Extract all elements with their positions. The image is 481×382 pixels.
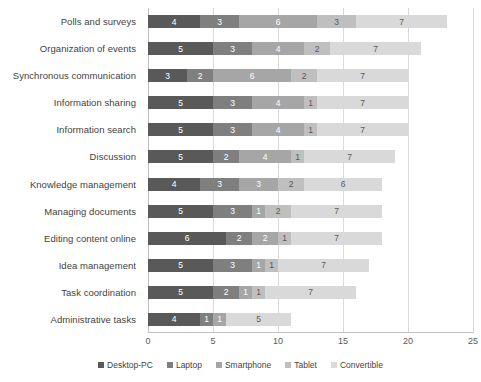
stacked-bar[interactable]: 53127 <box>148 205 382 218</box>
bar-segment[interactable]: 1 <box>278 232 291 245</box>
bar-segment[interactable]: 1 <box>304 123 317 136</box>
bar-segment[interactable]: 5 <box>148 259 213 272</box>
bar-segment[interactable]: 1 <box>213 313 226 326</box>
y-axis-label: Task coordination <box>0 279 142 306</box>
bar-row[interactable]: 32627 <box>148 62 473 89</box>
bar-row[interactable]: 62217 <box>148 225 473 252</box>
bar-segment[interactable]: 3 <box>213 205 252 218</box>
bar-segment[interactable]: 4 <box>252 123 304 136</box>
x-axis-tick-label: 5 <box>210 336 215 346</box>
bar-segment[interactable]: 2 <box>291 69 317 82</box>
bar-segment[interactable]: 4 <box>252 96 304 109</box>
bar-row[interactable]: 53427 <box>148 35 473 62</box>
bar-segment[interactable]: 3 <box>200 178 239 191</box>
bar-segment[interactable]: 2 <box>226 232 252 245</box>
bar-segment[interactable]: 1 <box>239 286 252 299</box>
stacked-bar[interactable]: 53417 <box>148 96 408 109</box>
bar-segment[interactable]: 5 <box>148 96 213 109</box>
x-axis-tick-label: 0 <box>145 336 150 346</box>
bar-segment[interactable]: 6 <box>239 15 317 28</box>
bar-segment[interactable]: 3 <box>239 178 278 191</box>
bar-segment[interactable]: 6 <box>213 69 291 82</box>
y-axis-label: Information search <box>0 116 142 143</box>
bar-segment[interactable]: 5 <box>226 313 291 326</box>
bar-segment[interactable]: 1 <box>252 259 265 272</box>
stacked-bar[interactable]: 43637 <box>148 15 447 28</box>
bar-segment[interactable]: 7 <box>291 232 382 245</box>
stacked-bar[interactable]: 53117 <box>148 259 369 272</box>
x-axis-tick-label: 20 <box>403 336 413 346</box>
bar-segment[interactable]: 1 <box>252 205 265 218</box>
stacked-bar[interactable]: 62217 <box>148 232 382 245</box>
stacked-bar[interactable]: 32627 <box>148 69 408 82</box>
stacked-bar[interactable]: 43326 <box>148 178 382 191</box>
bar-segment[interactable]: 4 <box>148 15 200 28</box>
bar-segment[interactable]: 5 <box>148 123 213 136</box>
bar-segment[interactable]: 2 <box>278 178 304 191</box>
bar-segment[interactable]: 3 <box>213 42 252 55</box>
bar-segment[interactable]: 4 <box>252 42 304 55</box>
bar-segment[interactable]: 7 <box>265 286 356 299</box>
bar-segment[interactable]: 6 <box>148 232 226 245</box>
x-axis-tick-labels: 0510152025 <box>148 336 473 352</box>
bar-segment[interactable]: 1 <box>291 150 304 163</box>
bar-segment[interactable]: 7 <box>317 69 408 82</box>
bar-row[interactable]: 53127 <box>148 198 473 225</box>
bar-row[interactable]: 52417 <box>148 143 473 170</box>
stacked-bar[interactable]: 53417 <box>148 123 408 136</box>
bar-segment[interactable]: 7 <box>291 205 382 218</box>
bar-segment[interactable]: 4 <box>239 150 291 163</box>
stacked-bar[interactable]: 4115 <box>148 313 291 326</box>
bar-segment[interactable]: 5 <box>148 42 213 55</box>
bar-row[interactable]: 53117 <box>148 252 473 279</box>
bar-row[interactable]: 53417 <box>148 89 473 116</box>
bar-segment[interactable]: 5 <box>148 286 213 299</box>
bar-row[interactable]: 53417 <box>148 116 473 143</box>
legend-item[interactable]: Tablet <box>285 360 317 370</box>
bar-row[interactable]: 4115 <box>148 306 473 333</box>
bar-segment[interactable]: 3 <box>317 15 356 28</box>
bar-segment[interactable]: 1 <box>200 313 213 326</box>
x-axis-tick-label: 25 <box>468 336 478 346</box>
bar-segment[interactable]: 7 <box>317 96 408 109</box>
bar-segment[interactable]: 3 <box>213 96 252 109</box>
bar-segment[interactable]: 7 <box>330 42 421 55</box>
bar-row[interactable]: 43326 <box>148 170 473 197</box>
stacked-bar[interactable]: 52417 <box>148 150 395 163</box>
bar-segment[interactable]: 3 <box>148 69 187 82</box>
legend-item[interactable]: Convertible <box>331 360 383 370</box>
bar-segment[interactable]: 6 <box>304 178 382 191</box>
legend-swatch-icon <box>216 362 222 368</box>
bar-row[interactable]: 43637 <box>148 8 473 35</box>
bar-segment[interactable]: 7 <box>304 150 395 163</box>
bar-segment[interactable]: 1 <box>304 96 317 109</box>
bar-segment[interactable]: 7 <box>356 15 447 28</box>
bar-segment[interactable]: 2 <box>304 42 330 55</box>
bar-segment[interactable]: 2 <box>265 205 291 218</box>
bar-segment[interactable]: 3 <box>213 123 252 136</box>
bar-row[interactable]: 52117 <box>148 279 473 306</box>
bar-segment[interactable]: 7 <box>317 123 408 136</box>
bar-segment[interactable]: 1 <box>265 259 278 272</box>
bar-segment[interactable]: 4 <box>148 313 200 326</box>
bar-segment[interactable]: 5 <box>148 205 213 218</box>
stacked-bar[interactable]: 53427 <box>148 42 421 55</box>
y-axis-label: Synchronous communication <box>0 62 142 89</box>
bar-segment[interactable]: 3 <box>213 259 252 272</box>
y-axis-label: Managing documents <box>0 198 142 225</box>
plot-area: 4363753427326275341753417524174332653127… <box>148 8 473 333</box>
bar-segment[interactable]: 3 <box>200 15 239 28</box>
bar-segment[interactable]: 5 <box>148 150 213 163</box>
stacked-bar[interactable]: 52117 <box>148 286 356 299</box>
legend-item[interactable]: Smartphone <box>216 360 271 370</box>
bar-segment[interactable]: 1 <box>252 286 265 299</box>
bar-segment[interactable]: 2 <box>187 69 213 82</box>
bar-segment[interactable]: 7 <box>278 259 369 272</box>
bar-segment[interactable]: 2 <box>252 232 278 245</box>
legend-item[interactable]: Desktop-PC <box>98 360 153 370</box>
legend-swatch-icon <box>167 362 173 368</box>
bar-segment[interactable]: 4 <box>148 178 200 191</box>
bar-segment[interactable]: 2 <box>213 150 239 163</box>
legend-item[interactable]: Laptop <box>167 360 202 370</box>
bar-segment[interactable]: 2 <box>213 286 239 299</box>
